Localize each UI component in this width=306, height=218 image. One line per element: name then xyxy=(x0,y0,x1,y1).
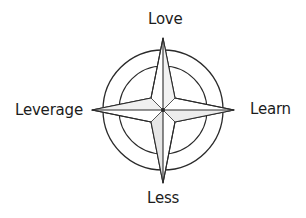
label-west: Leverage xyxy=(15,103,83,118)
label-north: Love xyxy=(148,12,183,27)
label-east: Learn xyxy=(250,102,291,117)
label-south: Less xyxy=(147,191,179,206)
compass-star xyxy=(92,38,234,183)
